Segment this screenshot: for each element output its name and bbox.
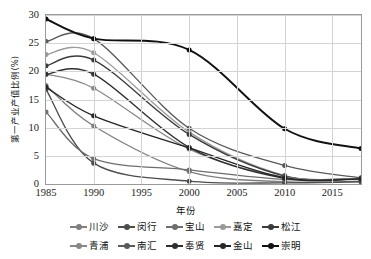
legend-item-崇明[interactable]: 崇明: [262, 241, 301, 251]
gridline-vertical: [285, 15, 286, 184]
legend-item-宝山[interactable]: 宝山: [166, 222, 205, 232]
y-axis-tick-label: 20: [10, 66, 39, 77]
legend-marker-icon: [214, 222, 231, 231]
legend-label: 南汇: [137, 241, 157, 251]
line-chart: 第一产业产值比例(%) 051015202530 198519901995200…: [0, 0, 371, 259]
y-axis-tick-label: 25: [10, 38, 39, 49]
legend-marker-icon: [70, 222, 87, 231]
legend-marker-icon: [166, 222, 183, 231]
y-axis-tick-label: 10: [10, 123, 39, 134]
data-point-marker: [46, 52, 49, 57]
gridline-vertical: [141, 15, 142, 184]
gridline-vertical: [237, 15, 238, 184]
legend-marker-icon: [70, 241, 87, 250]
legend-label: 青浦: [89, 241, 109, 251]
x-axis-tick-label: 1990: [72, 188, 116, 199]
legend-label: 嘉定: [233, 222, 253, 232]
legend-item-闵行[interactable]: 闵行: [118, 222, 157, 232]
x-axis-tick-label: 2015: [310, 188, 354, 199]
plot-area: [45, 14, 362, 185]
gridline-vertical: [94, 15, 95, 184]
legend-item-青浦[interactable]: 青浦: [70, 241, 109, 251]
legend-label: 崇明: [281, 241, 301, 251]
x-axis-tick-label: 1985: [24, 188, 68, 199]
data-point-marker: [46, 72, 49, 77]
legend-item-嘉定[interactable]: 嘉定: [214, 222, 253, 232]
gridline-vertical: [332, 15, 333, 184]
legend-row-1: 川沙闵行宝山嘉定松江: [0, 217, 371, 236]
legend-marker-icon: [262, 241, 279, 250]
data-point-marker: [46, 63, 49, 68]
legend-item-川沙[interactable]: 川沙: [70, 222, 109, 232]
legend-marker-icon: [214, 241, 231, 250]
legend-label: 闵行: [137, 222, 157, 232]
chart-legend: 川沙闵行宝山嘉定松江 青浦南汇奉贤金山崇明: [0, 217, 371, 255]
x-axis-tick-label: 2005: [215, 188, 259, 199]
legend-label: 奉贤: [185, 241, 205, 251]
legend-marker-icon: [118, 222, 135, 231]
legend-marker-icon: [118, 241, 135, 250]
legend-item-金山[interactable]: 金山: [214, 241, 253, 251]
y-axis-tick-label: 30: [10, 10, 39, 21]
legend-item-松江[interactable]: 松江: [262, 222, 301, 232]
legend-label: 松江: [281, 222, 301, 232]
y-axis-tick-label: 5: [10, 151, 39, 162]
legend-row-2: 青浦南汇奉贤金山崇明: [0, 236, 371, 255]
x-axis-tick-label: 2010: [263, 188, 307, 199]
legend-label: 金山: [233, 241, 253, 251]
x-axis-tick-label: 2000: [167, 188, 211, 199]
legend-label: 川沙: [89, 222, 109, 232]
legend-item-奉贤[interactable]: 奉贤: [166, 241, 205, 251]
gridline-vertical: [189, 15, 190, 184]
x-axis-title: 年份: [0, 203, 371, 217]
x-axis-tick-label: 1995: [119, 188, 163, 199]
legend-marker-icon: [166, 241, 183, 250]
data-point-marker: [359, 146, 362, 151]
legend-label: 宝山: [185, 222, 205, 232]
y-axis-tick-label: 15: [10, 95, 39, 106]
legend-marker-icon: [262, 222, 279, 231]
legend-item-南汇[interactable]: 南汇: [118, 241, 157, 251]
